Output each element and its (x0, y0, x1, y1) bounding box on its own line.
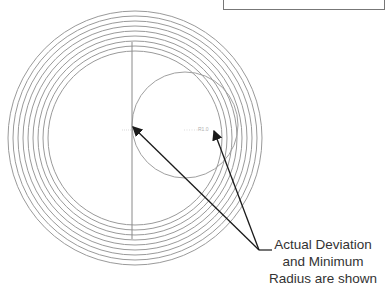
ring (38, 41, 232, 235)
callout-label: Actual Deviation and Minimum Radius are … (268, 236, 378, 284)
callout-line-2: and Minimum (268, 253, 378, 270)
ring (33, 36, 237, 240)
ring (8, 11, 262, 265)
concentric-rings (8, 11, 262, 265)
offset-circle (132, 72, 238, 178)
ring (28, 31, 242, 245)
ring (13, 16, 257, 260)
radius-label: R1.0 (198, 126, 209, 132)
ring (23, 26, 247, 250)
ring (48, 51, 222, 225)
callout-line-3: Radius are shown (268, 270, 378, 284)
callout-line-1: Actual Deviation (268, 236, 378, 253)
